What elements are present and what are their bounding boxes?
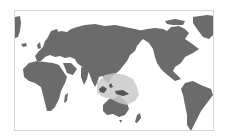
india [81, 67, 89, 85]
madagascar [64, 93, 68, 103]
arctic-archipelago [165, 19, 185, 25]
world-map [15, 11, 214, 131]
new-zealand [135, 113, 141, 123]
south-america [181, 81, 213, 131]
iceland [21, 43, 27, 47]
north-america [139, 26, 199, 81]
british-isles [37, 42, 41, 49]
world-map-frame [14, 10, 214, 131]
greenland-west-part [15, 16, 21, 38]
greenland [193, 15, 214, 39]
tasmania [119, 120, 122, 123]
land-masses [15, 15, 214, 131]
africa [23, 61, 67, 111]
arabian-peninsula [63, 63, 77, 75]
